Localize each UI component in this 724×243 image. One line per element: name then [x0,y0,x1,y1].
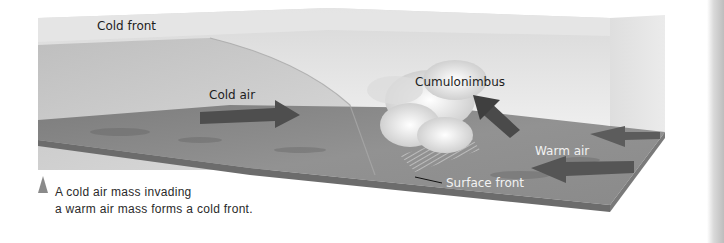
box-right-wall [610,15,665,140]
warm-air-label: Warm air [535,144,589,158]
cold-air-label: Cold air [209,88,255,102]
caption-triangle-icon [38,176,48,193]
caption-line-2: a warm air mass forms a cold front. [55,201,253,218]
page-edge [707,0,724,243]
caption-line-1: A cold air mass invading [55,184,253,201]
figure-caption: A cold air mass invading a warm air mass… [55,184,253,218]
cold-front-diagram: Cold front Cold air Cumulonimbus Warm ai… [0,0,724,243]
surface-front-label: Surface front [446,176,524,190]
cumulonimbus-label: Cumulonimbus [415,75,505,89]
cold-front-label: Cold front [97,19,156,33]
